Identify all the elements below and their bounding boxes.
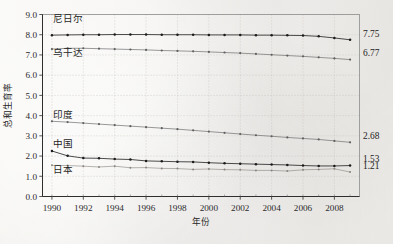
series-data-point <box>66 34 69 37</box>
x-tick-label: 2006 <box>294 203 313 213</box>
series-data-point <box>82 122 84 124</box>
series-data-point <box>223 162 226 165</box>
y-tick-label: 8.0 <box>26 30 38 40</box>
series-data-point <box>208 130 210 132</box>
series-data-point <box>286 164 289 167</box>
series-data-point <box>129 158 132 161</box>
series-data-point <box>223 132 225 134</box>
series-data-point <box>192 33 195 36</box>
series-line <box>52 151 350 166</box>
series-data-point <box>349 164 352 167</box>
series-data-point <box>349 141 351 143</box>
series-data-point <box>51 120 53 122</box>
series-data-point <box>51 150 54 153</box>
series-label: 尼日尔 <box>53 13 83 24</box>
series-data-point <box>192 168 194 170</box>
series-data-point <box>66 155 69 158</box>
y-tick-label: 6.0 <box>26 70 38 80</box>
series-data-point <box>302 55 304 57</box>
series-end-value: 2.68 <box>363 131 380 141</box>
x-axis-tick-labels: 1990199219941996199820002002200420062008 <box>43 203 344 213</box>
series-data-point <box>82 165 84 167</box>
series-data-point <box>286 170 288 172</box>
series-label: 日本 <box>53 164 73 175</box>
series-data-point <box>114 165 116 167</box>
series-data-point <box>271 169 273 171</box>
series-data-point <box>255 53 257 55</box>
x-tick-label: 1996 <box>137 203 156 213</box>
series-inline-labels: 尼日尔乌干达印度中国日本 <box>53 13 83 175</box>
series-data-point <box>176 50 178 52</box>
series-data-point <box>318 138 320 140</box>
series-data-point <box>333 168 335 170</box>
series-data-point <box>176 160 179 163</box>
series-data-point <box>98 48 100 50</box>
series-data-point <box>239 52 241 54</box>
series-data-point <box>161 33 164 36</box>
series-data-point <box>317 35 320 38</box>
series-end-value-labels: 7.756.772.681.531.21 <box>363 29 380 171</box>
series-data-point <box>318 168 320 170</box>
series-data-point <box>333 57 335 59</box>
series-data-point <box>270 34 273 37</box>
series-data-point <box>349 39 352 42</box>
series-data-point <box>302 169 304 171</box>
x-tick-label: 2002 <box>231 203 250 213</box>
series-data-point <box>208 34 211 37</box>
series-data-point <box>114 48 116 50</box>
series-data-point <box>239 34 242 37</box>
series-data-point <box>67 121 69 123</box>
series-data-point <box>302 34 305 37</box>
series-data-point <box>223 51 225 53</box>
x-tick-label: 1990 <box>43 203 62 213</box>
x-tick-label: 2004 <box>262 203 281 213</box>
series-data-point <box>145 49 147 51</box>
y-axis-title: 总和生育率 <box>2 83 13 128</box>
series-data-point <box>318 56 320 58</box>
series-data-point <box>208 161 211 164</box>
y-tick-label: 1.0 <box>26 172 38 182</box>
series-data-point <box>176 168 178 170</box>
series-label: 乌干达 <box>53 47 83 58</box>
series-data-point <box>349 58 351 60</box>
series-data-point <box>255 134 257 136</box>
series-data-point <box>239 133 241 135</box>
series-end-value: 1.21 <box>363 161 380 171</box>
y-tick-label: 5.0 <box>26 91 38 101</box>
series-data-point <box>82 33 85 36</box>
series-data-point <box>255 169 257 171</box>
series-data-point <box>176 128 178 130</box>
series-data-point <box>302 137 304 139</box>
series-data-point <box>145 160 148 163</box>
series-data-point <box>98 123 100 125</box>
y-tick-label: 7.0 <box>26 50 38 60</box>
series-line <box>52 121 350 142</box>
series-data-point <box>98 157 101 160</box>
y-tick-label: 2.0 <box>26 151 38 161</box>
series-data-point <box>145 167 147 169</box>
x-tick-label: 2008 <box>325 203 344 213</box>
x-axis-title: 年份 <box>192 216 210 227</box>
series-data-point <box>192 50 194 52</box>
series-data-point <box>82 157 85 160</box>
fertility-rate-line-chart: 0.01.02.03.04.05.06.07.08.09.0 199019921… <box>0 0 393 244</box>
series-data-point <box>145 33 148 36</box>
x-tick-label: 1998 <box>168 203 187 213</box>
series-line <box>52 48 350 59</box>
series-data-point <box>129 167 131 169</box>
series-data-point <box>333 140 335 142</box>
y-tick-label: 4.0 <box>26 111 38 121</box>
series-data-point <box>192 161 195 164</box>
axis-ticks-group <box>39 15 350 200</box>
series-data-point <box>224 169 226 171</box>
series-line <box>52 35 350 40</box>
series-data-point <box>208 168 210 170</box>
series-data-point <box>129 33 132 36</box>
series-data-point <box>208 51 210 53</box>
series-data-point <box>114 124 116 126</box>
y-tick-label: 3.0 <box>26 131 38 141</box>
series-data-point <box>113 33 116 36</box>
series-data-point <box>349 171 351 173</box>
series-data-point <box>333 165 336 168</box>
series-data-point <box>270 163 273 166</box>
